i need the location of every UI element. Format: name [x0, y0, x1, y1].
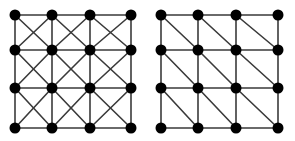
graph-node — [47, 83, 58, 94]
graph-node — [273, 123, 284, 134]
graph-node — [85, 83, 96, 94]
graph-node — [156, 10, 167, 21]
graph-node — [85, 123, 96, 134]
diagonal-edge-down — [198, 15, 236, 50]
left-grid-graph — [10, 10, 137, 134]
diagonal-edge-down — [236, 88, 278, 128]
graph-node — [193, 123, 204, 134]
graph-node — [231, 10, 242, 21]
diagonal-edge-down — [161, 50, 198, 88]
graph-node — [10, 45, 21, 56]
diagonal-edge-down — [161, 88, 198, 128]
diagram-canvas — [0, 0, 295, 141]
diagonal-edge-down — [198, 50, 236, 88]
right-grid-graph — [156, 10, 284, 134]
graph-node — [47, 123, 58, 134]
diagonal-edge-down — [161, 15, 198, 50]
graph-node — [85, 10, 96, 21]
graph-node — [47, 45, 58, 56]
graph-node — [193, 10, 204, 21]
graph-node — [85, 45, 96, 56]
graph-node — [193, 83, 204, 94]
graph-node — [10, 83, 21, 94]
graph-node — [10, 10, 21, 21]
diagonal-edge-down — [198, 88, 236, 128]
graph-node — [47, 10, 58, 21]
graph-node — [126, 10, 137, 21]
graph-node — [126, 83, 137, 94]
graph-node — [156, 45, 167, 56]
diagonal-edge-down — [236, 50, 278, 88]
graph-node — [193, 45, 204, 56]
graph-node — [231, 83, 242, 94]
graph-node — [156, 83, 167, 94]
diagonal-edge-down — [236, 15, 278, 50]
graph-node — [126, 45, 137, 56]
graph-node — [10, 123, 21, 134]
grid-graphs-diagram — [0, 0, 295, 141]
graph-node — [273, 45, 284, 56]
graph-node — [126, 123, 137, 134]
graph-node — [156, 123, 167, 134]
graph-node — [231, 45, 242, 56]
graph-node — [273, 10, 284, 21]
graph-node — [231, 123, 242, 134]
graph-node — [273, 83, 284, 94]
